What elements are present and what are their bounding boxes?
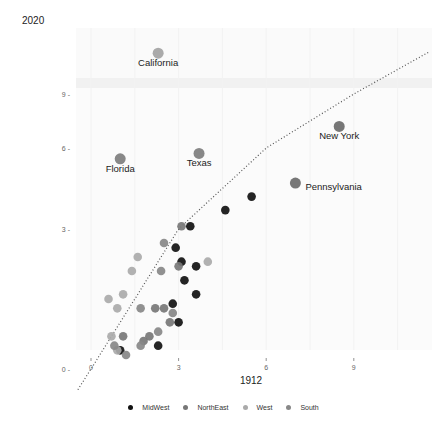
data-point: [128, 267, 137, 276]
data-point: [171, 243, 180, 252]
data-point: [136, 341, 145, 350]
data-point: [151, 304, 160, 313]
data-point: [192, 290, 201, 299]
data-point: [119, 332, 128, 341]
data-point: [174, 262, 183, 271]
data-point: [154, 327, 163, 336]
point-label: California: [138, 57, 179, 68]
data-point: [166, 318, 175, 327]
x-tick-label: 6: [264, 364, 268, 371]
point-label: Texas: [187, 157, 212, 168]
data-point: [104, 295, 113, 304]
legend-dot-icon: [183, 405, 188, 410]
x-tick-label: 9: [352, 364, 356, 371]
point-label: Pennsylvania: [305, 181, 362, 192]
legend-item-south: South: [286, 404, 318, 411]
data-point: [221, 206, 230, 215]
data-point: [110, 341, 119, 350]
plot-panel: [76, 28, 432, 350]
data-point: [157, 267, 166, 276]
legend-dot-icon: [286, 405, 291, 410]
y-tick-label: 3 -: [62, 226, 71, 233]
legend-label: South: [300, 404, 318, 411]
data-point: [122, 351, 131, 360]
data-point: [168, 309, 177, 318]
x-axis-title: 1912: [240, 375, 263, 386]
legend-item-northeast: NorthEast: [183, 404, 228, 411]
data-point: [160, 304, 169, 313]
scatter-chart: CaliforniaNew YorkFloridaTexasPennsylvan…: [0, 0, 447, 400]
data-point: [204, 257, 213, 266]
x-tick-label: 0: [89, 364, 93, 371]
legend-label: MidWest: [142, 404, 169, 411]
labeled-data-point: [290, 178, 301, 189]
x-tick-label: 3: [177, 364, 181, 371]
data-point: [168, 299, 177, 308]
y-tick-label: 9 -: [62, 91, 71, 98]
legend-label: West: [257, 404, 273, 411]
legend: MidWestNorthEastWestSouth: [0, 404, 447, 411]
data-point: [133, 253, 142, 262]
legend-item-west: West: [243, 404, 273, 411]
data-point: [113, 304, 122, 313]
point-label: Florida: [106, 163, 136, 174]
data-point: [136, 304, 145, 313]
y-axis-ticks: 0 -3 -6 -9 -: [62, 91, 71, 373]
legend-item-midwest: MidWest: [128, 404, 169, 411]
y-tick-label: 6 -: [62, 145, 71, 152]
legend-dot-icon: [128, 405, 133, 410]
x-axis-ticks: 0369: [89, 358, 356, 371]
data-point: [160, 239, 169, 248]
data-point: [107, 332, 116, 341]
legend-dot-icon: [243, 405, 248, 410]
data-point: [192, 262, 201, 271]
point-label: New York: [319, 130, 359, 141]
data-point: [119, 290, 128, 299]
legend-label: NorthEast: [197, 404, 228, 411]
data-point: [154, 341, 163, 350]
data-point: [247, 192, 256, 201]
data-point: [186, 222, 195, 231]
data-point: [174, 318, 183, 327]
data-point: [177, 222, 186, 231]
y-axis-title: 2020: [22, 15, 45, 26]
data-point: [180, 276, 189, 285]
y-tick-label: 0 -: [62, 366, 71, 373]
